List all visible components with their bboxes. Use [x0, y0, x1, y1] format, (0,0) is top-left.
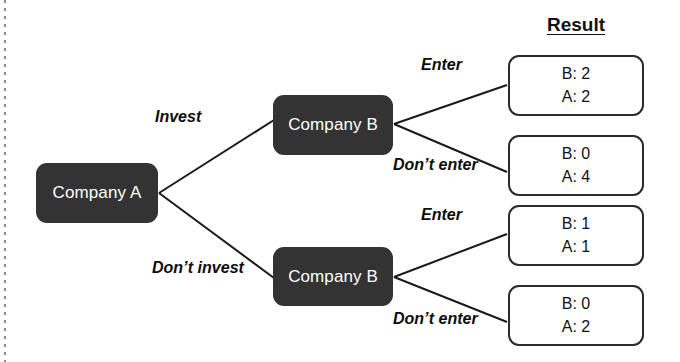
edge-label-enter-bottom: Enter	[421, 206, 462, 224]
edge-enter-top	[394, 85, 507, 124]
edge-invest	[159, 120, 274, 193]
result-column-heading: Result	[508, 14, 644, 36]
result-box-invest-enter: B: 2 A: 2	[508, 55, 644, 116]
payoff-b: B: 0	[562, 143, 590, 166]
payoff-a: A: 2	[562, 86, 590, 109]
edge-label-dont-enter-top: Don’t enter	[393, 156, 478, 174]
payoff-a: A: 2	[562, 316, 590, 339]
node-company-b-top-label: Company B	[288, 115, 378, 135]
result-box-invest-dont-enter: B: 0 A: 4	[508, 135, 644, 196]
node-company-b-bottom-label: Company B	[288, 267, 378, 287]
node-company-b-bottom[interactable]: Company B	[273, 247, 393, 306]
result-box-noinvest-enter: B: 1 A: 1	[508, 205, 644, 266]
game-tree-diagram: Company A Company B Company B Invest Don…	[0, 0, 680, 362]
payoff-b: B: 1	[562, 213, 590, 236]
result-box-noinvest-dont-enter: B: 0 A: 2	[508, 285, 644, 346]
node-company-a-label: Company A	[53, 183, 142, 203]
edge-label-invest: Invest	[155, 108, 201, 126]
edge-label-dont-enter-bottom: Don’t enter	[393, 310, 478, 328]
payoff-a: A: 4	[562, 166, 590, 189]
node-company-b-top[interactable]: Company B	[273, 95, 393, 155]
edge-label-dont-invest: Don’t invest	[152, 259, 244, 277]
payoff-b: B: 0	[562, 293, 590, 316]
payoff-b: B: 2	[562, 63, 590, 86]
node-company-a[interactable]: Company A	[36, 163, 158, 223]
edge-enter-bottom	[394, 234, 507, 277]
edge-label-enter-top: Enter	[421, 56, 462, 74]
payoff-a: A: 1	[562, 236, 590, 259]
